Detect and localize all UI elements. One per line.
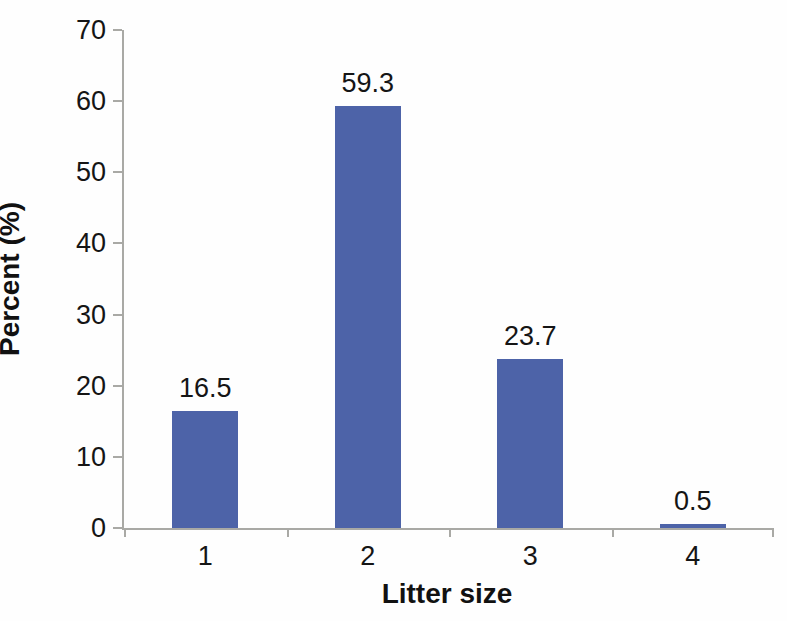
x-tick-label: 2 <box>287 541 450 571</box>
x-tick-mark <box>124 528 126 537</box>
bar-value-label: 59.3 <box>287 68 450 98</box>
bar-2 <box>335 106 401 528</box>
y-tick-label: 60 <box>30 86 106 116</box>
y-tick-mark <box>113 29 122 31</box>
x-tick-mark <box>772 528 774 537</box>
x-tick-mark <box>612 528 614 537</box>
y-tick-mark <box>113 314 122 316</box>
y-tick-mark <box>113 242 122 244</box>
bar-1 <box>172 411 238 528</box>
y-tick-mark <box>113 171 122 173</box>
y-tick-mark <box>113 527 122 529</box>
y-tick-label: 20 <box>30 371 106 401</box>
y-tick-label: 40 <box>30 228 106 258</box>
y-tick-label: 10 <box>30 442 106 472</box>
y-tick-label: 0 <box>30 513 106 543</box>
x-tick-label: 1 <box>124 541 287 571</box>
y-axis-title: Percent (%) <box>0 202 26 356</box>
bar-3 <box>497 359 563 528</box>
y-tick-label: 70 <box>30 15 106 45</box>
y-tick-mark <box>113 385 122 387</box>
bar-value-label: 0.5 <box>612 486 775 516</box>
y-tick-mark <box>113 456 122 458</box>
y-tick-label: 30 <box>30 300 106 330</box>
y-tick-mark <box>113 100 122 102</box>
x-tick-mark <box>287 528 289 537</box>
plot-area: 01020304050607016.5159.3223.730.54 <box>122 30 774 530</box>
bar-chart: Percent (%) 01020304050607016.5159.3223.… <box>0 0 787 621</box>
y-tick-label: 50 <box>30 157 106 187</box>
x-tick-label: 3 <box>449 541 612 571</box>
bar-value-label: 23.7 <box>449 321 612 351</box>
x-tick-label: 4 <box>612 541 775 571</box>
x-axis-title: Litter size <box>122 578 772 610</box>
bar-4 <box>660 524 726 528</box>
x-tick-mark <box>449 528 451 537</box>
bar-value-label: 16.5 <box>124 373 287 403</box>
